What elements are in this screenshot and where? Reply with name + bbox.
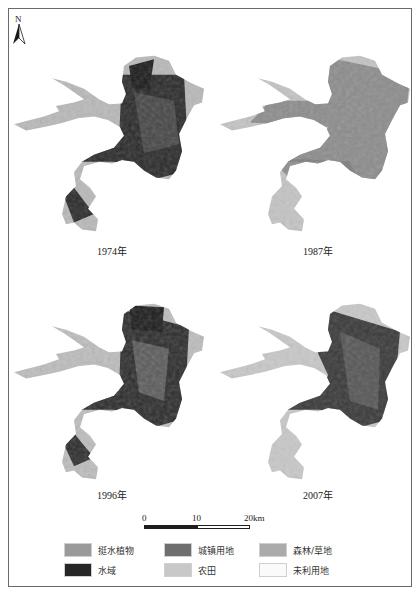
scale-tick-0: 0 (142, 513, 147, 523)
map-2007 (210, 288, 415, 478)
year-label-1996: 1996年 (72, 487, 152, 502)
legend-item-unused: 未利用地 (259, 562, 329, 578)
scale-tick-20: 20km (244, 513, 265, 523)
year-label-1974: 1974年 (72, 243, 152, 258)
legend-item-farmland: 农田 (164, 562, 216, 578)
scale-bar: 0 10 20km (140, 513, 280, 533)
legend-item-urban: 城镇用地 (164, 542, 234, 558)
scale-bar-black-segment (144, 525, 197, 529)
year-label-1987: 1987年 (278, 243, 358, 258)
map-1996 (4, 288, 209, 478)
legend-swatch (64, 563, 92, 577)
map-1987 (210, 40, 415, 230)
legend-swatch (259, 543, 287, 557)
legend-swatch (164, 563, 192, 577)
legend-swatch (64, 543, 92, 557)
legend-item-forest-grass: 森林/草地 (259, 542, 332, 558)
legend-swatch (164, 543, 192, 557)
map-1974 (4, 40, 209, 230)
scale-tick-10: 10 (192, 513, 201, 523)
scale-bar-white-segment (197, 525, 250, 529)
legend-swatch (259, 563, 287, 577)
legend-item-emergent-plants: 挺水植物 (64, 542, 134, 558)
year-label-2007: 2007年 (278, 487, 358, 502)
legend-item-water: 水域 (64, 562, 116, 578)
legend: 挺水植物 城镇用地 森林/草地 水域 农田 未利用地 (64, 542, 364, 582)
north-label: N (15, 14, 22, 24)
